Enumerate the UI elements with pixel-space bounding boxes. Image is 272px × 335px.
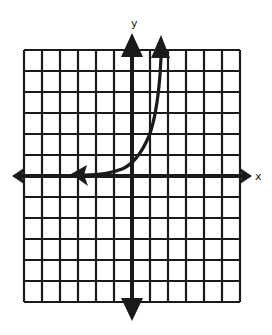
y-axis-up-arrow-icon (121, 33, 143, 57)
y-axis-label: y (131, 18, 138, 29)
curve-up-arrow-icon (151, 35, 170, 58)
y-axis-down-arrow-icon (121, 298, 143, 321)
x-axis-label: x (255, 171, 262, 182)
coordinate-plane (0, 0, 272, 335)
exponential-curve (71, 35, 170, 186)
